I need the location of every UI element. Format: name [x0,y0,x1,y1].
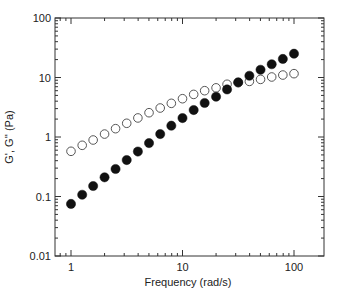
g-prime-point [89,181,98,190]
y-tick-label: 0.01 [30,250,51,262]
g-prime-point [267,60,276,69]
y-tick-label: 1 [45,131,51,143]
g-double-prime-point [78,141,87,150]
g-prime-point [189,105,198,114]
g-double-prime-point [156,104,165,113]
g-double-prime-point [212,84,221,93]
y-tick-labels: 0.010.1110100 [30,12,51,262]
g-prime-point [211,92,220,101]
g-prime-point [100,173,109,182]
rheology-log-log-plot: 110100 0.010.1110100 Frequency (rad/s) G… [0,0,340,297]
g-double-prime-point [189,90,198,99]
g-prime-point [222,85,231,94]
g-prime-point [144,138,153,147]
series-g-double-prime-open-circles [67,69,299,155]
g-double-prime-point [178,94,187,103]
g-double-prime-point [134,114,143,123]
y-tick-label: 0.1 [36,191,51,203]
y-axis-label: G', G'' (Pa) [3,110,15,163]
g-prime-point [167,121,176,130]
g-prime-point [256,65,265,74]
x-tick-labels: 110100 [68,261,303,273]
x-axis-label: Frequency (rad/s) [145,276,232,288]
g-double-prime-point [200,86,209,95]
x-tick-label: 1 [68,261,74,273]
g-double-prime-point [290,69,299,78]
g-double-prime-point [111,124,120,133]
g-prime-point [78,190,87,199]
g-double-prime-point [145,108,154,117]
g-double-prime-point [100,130,109,139]
g-prime-point [178,113,187,122]
g-prime-point [133,147,142,156]
g-double-prime-point [256,75,265,84]
g-double-prime-point [122,119,131,128]
x-tick-label: 10 [176,261,188,273]
g-prime-point [278,54,287,63]
chart-container: 110100 0.010.1110100 Frequency (rad/s) G… [0,0,340,297]
g-prime-point [200,98,209,107]
g-prime-point [234,78,243,87]
g-prime-point [289,49,298,58]
g-double-prime-point [279,71,288,80]
y-tick-label: 100 [33,12,51,24]
g-double-prime-point [67,147,76,156]
g-prime-point [245,71,254,80]
g-prime-point [66,199,75,208]
g-prime-point [156,129,165,138]
g-double-prime-point [267,73,276,82]
y-tick-label: 10 [39,72,51,84]
g-double-prime-point [167,99,176,108]
series-g-prime-filled-circles [66,49,298,208]
x-tick-label: 100 [285,261,303,273]
g-prime-point [111,164,120,173]
g-double-prime-point [89,136,98,145]
g-prime-point [122,155,131,164]
